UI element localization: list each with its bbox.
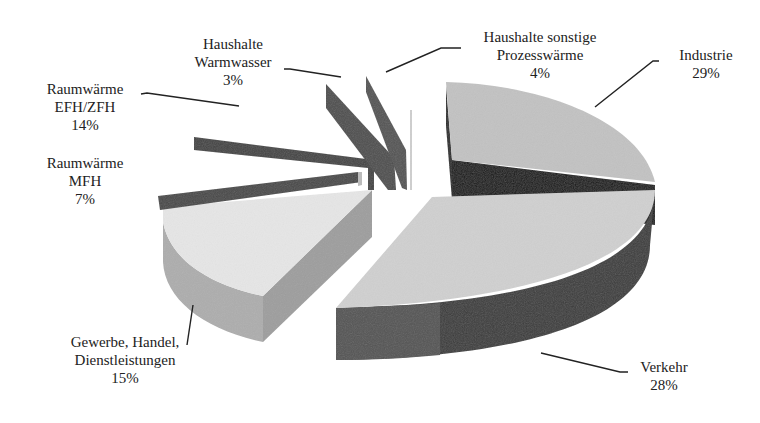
label-gewerbe-line2: Dienstleistungen	[30, 351, 220, 369]
label-verkehr-name: Verkehr	[614, 358, 714, 376]
label-prozess-pct: 4%	[460, 64, 620, 82]
label-raumwaerme-efh: Raumwärme EFH/ZFH 14%	[30, 80, 140, 134]
leader-warmwasser	[284, 69, 341, 77]
label-haushalte-prozesswaerme: Haushalte sonstige Prozesswärme 4%	[460, 28, 620, 82]
label-haushalte-warmwasser: Haushalte Warmwasser 3%	[178, 35, 288, 89]
label-industrie-name: Industrie	[650, 46, 760, 64]
label-industrie-pct: 29%	[650, 64, 760, 82]
label-raumwaerme-mfh: Raumwärme MFH 7%	[30, 154, 140, 208]
label-verkehr-pct: 28%	[614, 376, 714, 394]
label-gewerbe: Gewerbe, Handel, Dienstleistungen 15%	[30, 333, 220, 387]
leader-efh	[141, 93, 239, 106]
label-verkehr: Verkehr 28%	[614, 358, 714, 394]
label-efh-line1: Raumwärme	[30, 80, 140, 98]
leader-prozess	[386, 48, 461, 72]
label-mfh-pct: 7%	[30, 190, 140, 208]
label-warmwasser-pct: 3%	[178, 71, 288, 89]
label-warmwasser-line2: Warmwasser	[178, 53, 288, 71]
label-prozess-line1: Haushalte sonstige	[460, 28, 620, 46]
label-mfh-line2: MFH	[30, 172, 140, 190]
label-gewerbe-pct: 15%	[30, 369, 220, 387]
label-industrie: Industrie 29%	[650, 46, 760, 82]
label-warmwasser-line1: Haushalte	[178, 35, 288, 53]
label-gewerbe-line1: Gewerbe, Handel,	[30, 333, 220, 351]
label-efh-pct: 14%	[30, 116, 140, 134]
label-efh-line2: EFH/ZFH	[30, 98, 140, 116]
slice-verkehr	[336, 190, 655, 360]
label-prozess-line2: Prozesswärme	[460, 46, 620, 64]
label-mfh-line1: Raumwärme	[30, 154, 140, 172]
